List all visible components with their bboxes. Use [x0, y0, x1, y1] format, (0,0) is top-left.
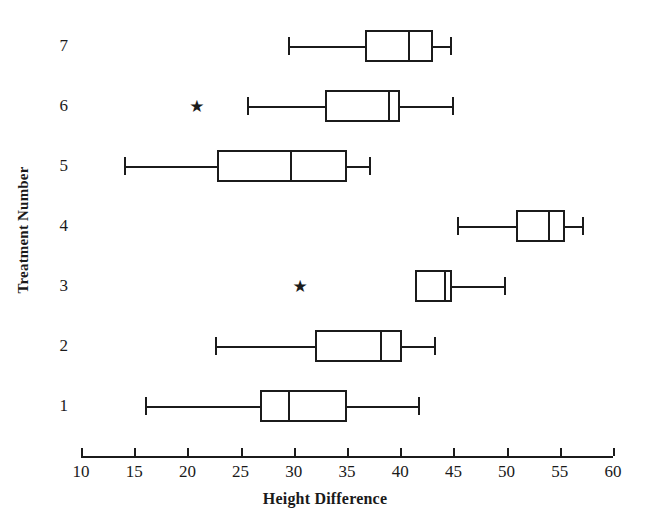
- upper-whisker-cap: [452, 97, 454, 115]
- box-plot-row-5: [0, 136, 650, 196]
- iqr-box: [365, 30, 433, 62]
- x-axis-tick-40: [400, 448, 402, 456]
- x-axis: 1015202530354045505560 Height Difference: [0, 452, 650, 532]
- lower-whisker-line: [215, 346, 315, 348]
- median-line: [288, 390, 290, 422]
- upper-whisker-cap: [369, 157, 371, 175]
- upper-whisker-line: [402, 346, 436, 348]
- upper-whisker-cap: [504, 277, 506, 295]
- outlier-star-icon: ★: [293, 278, 308, 295]
- upper-whisker-line: [347, 406, 420, 408]
- iqr-box: [217, 150, 347, 182]
- median-line: [548, 210, 550, 242]
- box-plot-row-1: [0, 376, 650, 436]
- x-axis-tick-30: [294, 448, 296, 456]
- x-axis-tick-55: [560, 448, 562, 456]
- upper-whisker-line: [347, 166, 371, 168]
- lower-whisker-cap: [457, 217, 459, 235]
- lower-whisker-cap: [145, 397, 147, 415]
- median-line: [444, 270, 446, 302]
- upper-whisker-line: [400, 106, 454, 108]
- upper-whisker-cap: [450, 37, 452, 55]
- lower-whisker-line: [288, 46, 365, 48]
- median-line: [380, 330, 382, 362]
- lower-whisker-line: [124, 166, 218, 168]
- x-axis-tick-50: [507, 448, 509, 456]
- plot-area: ★★: [0, 0, 650, 455]
- x-axis-tick-label-35: 35: [327, 462, 367, 482]
- iqr-box: [415, 270, 452, 302]
- median-line: [408, 30, 410, 62]
- iqr-box: [315, 330, 402, 362]
- lower-whisker-line: [457, 226, 517, 228]
- lower-whisker-cap: [215, 337, 217, 355]
- lower-whisker-line: [247, 106, 325, 108]
- x-axis-tick-label-25: 25: [221, 462, 261, 482]
- median-line: [388, 90, 390, 122]
- iqr-box: [516, 210, 565, 242]
- upper-whisker-cap: [582, 217, 584, 235]
- x-axis-tick-20: [187, 448, 189, 456]
- x-axis-tick-45: [453, 448, 455, 456]
- x-axis-tick-label-20: 20: [167, 462, 207, 482]
- x-axis-tick-label-55: 55: [540, 462, 580, 482]
- upper-whisker-cap: [418, 397, 420, 415]
- lower-whisker-cap: [288, 37, 290, 55]
- x-axis-tick-label-30: 30: [274, 462, 314, 482]
- x-axis-title: Height Difference: [0, 490, 650, 508]
- box-plot-row-2: [0, 316, 650, 376]
- x-axis-tick-label-10: 10: [61, 462, 101, 482]
- outlier-star-icon: ★: [189, 98, 204, 115]
- box-plot-row-7: [0, 16, 650, 76]
- x-axis-line: [81, 456, 613, 458]
- x-axis-tick-60: [613, 448, 615, 456]
- x-axis-tick-label-50: 50: [487, 462, 527, 482]
- lower-whisker-cap: [124, 157, 126, 175]
- box-plot-row-3: ★: [0, 256, 650, 316]
- upper-whisker-cap: [434, 337, 436, 355]
- x-axis-tick-15: [134, 448, 136, 456]
- box-plot-row-6: ★: [0, 76, 650, 136]
- lower-whisker-cap: [247, 97, 249, 115]
- upper-whisker-line: [452, 286, 505, 288]
- x-axis-tick-label-45: 45: [433, 462, 473, 482]
- median-line: [290, 150, 292, 182]
- x-axis-tick-label-60: 60: [593, 462, 633, 482]
- x-axis-tick-25: [241, 448, 243, 456]
- x-axis-tick-35: [347, 448, 349, 456]
- x-axis-tick-label-15: 15: [114, 462, 154, 482]
- x-axis-tick-label-40: 40: [380, 462, 420, 482]
- x-axis-tick-10: [81, 448, 83, 456]
- box-plot-chart: Treatment Number 7654321 ★★ 101520253035…: [0, 0, 650, 532]
- box-plot-row-4: [0, 196, 650, 256]
- lower-whisker-line: [145, 406, 260, 408]
- iqr-box: [260, 390, 347, 422]
